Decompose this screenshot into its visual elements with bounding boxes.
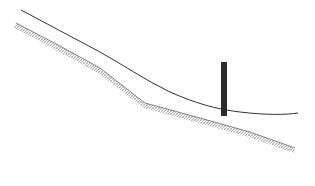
- surface-layer-line: [21, 10, 298, 114]
- diagram-canvas: [0, 0, 315, 186]
- ground-surface-line: [16, 23, 295, 148]
- vertical-post: [221, 62, 227, 116]
- slope-diagram: [0, 0, 315, 186]
- ground-hatch: [14, 23, 295, 153]
